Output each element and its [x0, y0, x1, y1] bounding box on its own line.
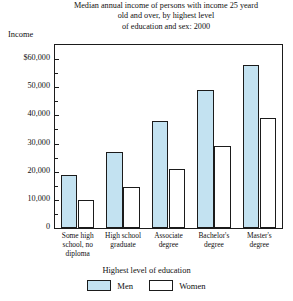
bar-women — [123, 187, 140, 228]
y-tick-label: 20,000 — [27, 167, 50, 175]
x-category-label-line: Associate — [143, 231, 194, 240]
x-category-label: Associatedegree — [143, 231, 194, 249]
legend-label-women: Women — [179, 281, 206, 291]
x-category-label: Master'sdegree — [234, 231, 285, 249]
y-tick-label: 50,000 — [27, 82, 50, 90]
x-category-label-line: degree — [188, 240, 239, 249]
x-category-label-line: Bachelor's — [188, 231, 239, 240]
bar-women — [214, 146, 231, 228]
y-tick-label: 40,000 — [27, 110, 50, 118]
x-axis-label: Highest level of education — [0, 266, 293, 275]
x-category-label-line: degree — [143, 240, 194, 249]
legend-item-men: Men — [87, 280, 133, 291]
legend-label-men: Men — [117, 281, 133, 291]
bar-men — [197, 90, 214, 228]
chart-title-line-1: Median annual income of persons with inc… — [42, 1, 290, 11]
chart-legend: Men Women — [0, 280, 293, 291]
bar-women — [169, 169, 186, 228]
bar-women — [260, 118, 277, 228]
legend-item-women: Women — [149, 280, 206, 291]
y-tick-label: 0 — [46, 223, 50, 231]
x-category-label-line: diploma — [52, 249, 103, 258]
legend-swatch-men-icon — [87, 280, 111, 291]
x-axis-categories: Some highschool, nodiplomaHigh schoolgra… — [55, 231, 282, 267]
bar-men — [61, 175, 78, 228]
bar-men — [106, 152, 123, 228]
x-category-label: High schoolgraduate — [97, 231, 148, 249]
x-category-label-line: school, no — [52, 240, 103, 249]
chart-title-line-2: old and over, by highest level — [42, 11, 290, 21]
x-category-label: Bachelor'sdegree — [188, 231, 239, 249]
chart-title-line-3: of education and sex: 2000 — [42, 22, 290, 32]
y-axis-label: Income — [8, 30, 33, 39]
x-category-label-line: High school — [97, 231, 148, 240]
y-tick-label: 10,000 — [27, 195, 50, 203]
y-tick-label: $60,000 — [23, 54, 50, 62]
bar-women — [78, 200, 95, 228]
legend-swatch-women-icon — [149, 280, 173, 291]
bar-men — [152, 121, 169, 228]
x-category-label-line: graduate — [97, 240, 148, 249]
y-axis-ticks: $60,00050,00040,00030,00020,00010,0000 — [0, 44, 50, 229]
chart-title: Median annual income of persons with inc… — [42, 1, 290, 32]
x-category-label-line: Some high — [52, 231, 103, 240]
x-category-label-line: Master's — [234, 231, 285, 240]
y-tick-label: 30,000 — [27, 139, 50, 147]
bar-chart: Median annual income of persons with inc… — [0, 0, 293, 301]
bar-men — [243, 65, 260, 228]
x-category-label-line: degree — [234, 240, 285, 249]
x-category-label: Some highschool, nodiploma — [52, 231, 103, 259]
plot-area — [55, 45, 282, 228]
